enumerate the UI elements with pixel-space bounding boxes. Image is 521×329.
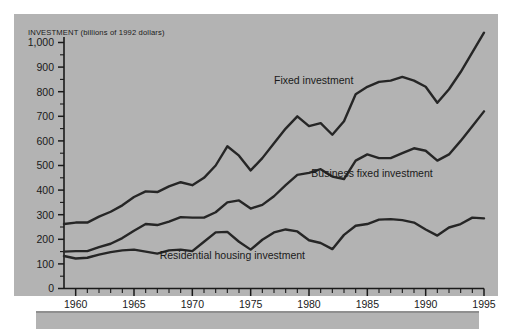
x-tick-label: 1980 bbox=[297, 298, 321, 310]
x-tick-label: 1990 bbox=[414, 298, 438, 310]
y-tick-label: 800 bbox=[36, 86, 54, 98]
y-tick-label: 100 bbox=[36, 258, 54, 270]
x-tick-label: 1965 bbox=[122, 298, 146, 310]
series-label-0: Fixed investment bbox=[274, 74, 353, 86]
y-tick-label: 400 bbox=[36, 184, 54, 196]
x-tick-label: 1960 bbox=[64, 298, 88, 310]
data-series-group bbox=[64, 33, 484, 259]
y-tick-label: 200 bbox=[36, 233, 54, 245]
series-label-2: Residential housing investment bbox=[160, 249, 305, 261]
line-chart: INVESTMENT (billions of 1992 dollars) 01… bbox=[0, 0, 521, 329]
y-tick-label: 500 bbox=[36, 159, 54, 171]
x-axis-ticks: 19601965197019751980198519901995 bbox=[64, 289, 496, 311]
x-tick-label: 1995 bbox=[472, 298, 496, 310]
y-axis-ticks: 01002003004005006007008009001,000 bbox=[28, 36, 64, 294]
y-tick-label: 300 bbox=[36, 209, 54, 221]
figure-root: INVESTMENT (billions of 1992 dollars) 01… bbox=[0, 0, 521, 329]
y-tick-label: 1,000 bbox=[28, 36, 54, 48]
x-tick-label: 1970 bbox=[181, 298, 205, 310]
y-tick-label: 900 bbox=[36, 61, 54, 73]
series-line-1 bbox=[64, 111, 484, 251]
series-label-1: Business fixed investment bbox=[311, 167, 432, 179]
x-tick-label: 1985 bbox=[356, 298, 380, 310]
series-labels-group: Fixed investmentBusiness fixed investmen… bbox=[160, 74, 433, 261]
y-tick-label: 0 bbox=[48, 282, 54, 294]
y-tick-label: 600 bbox=[36, 135, 54, 147]
y-tick-label: 700 bbox=[36, 110, 54, 122]
x-tick-label: 1975 bbox=[239, 298, 263, 310]
